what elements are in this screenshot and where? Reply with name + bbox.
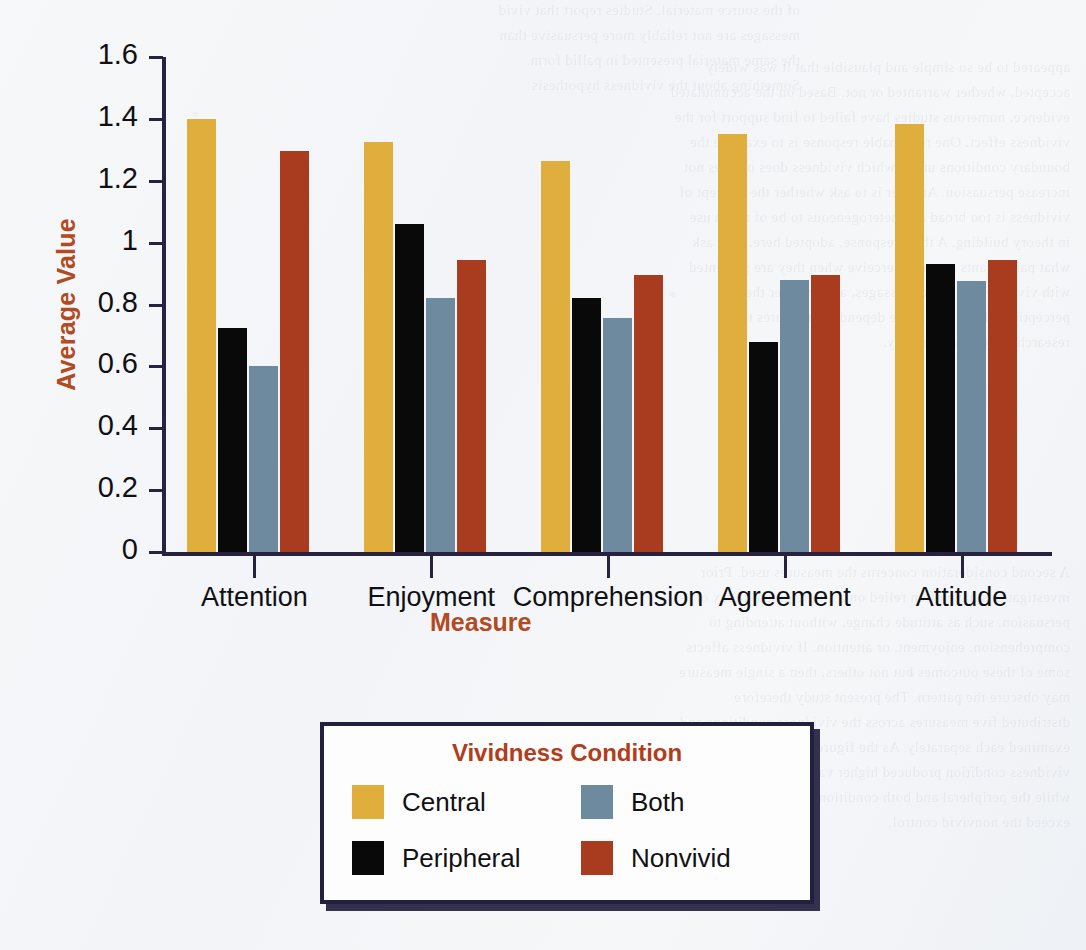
legend-item[interactable]: Peripheral (352, 841, 581, 875)
y-tick-mark (149, 118, 163, 121)
y-tick-label: 1.4 (48, 100, 138, 133)
bar (895, 124, 924, 552)
x-category-label: Attitude (916, 582, 1008, 613)
x-category-label: Agreement (719, 582, 851, 613)
bar (572, 298, 601, 552)
legend-item[interactable]: Both (581, 785, 810, 819)
legend-item[interactable]: Nonvivid (581, 841, 810, 875)
y-tick-mark (149, 304, 163, 307)
legend-swatch-icon (581, 841, 613, 875)
bar (541, 161, 570, 552)
legend-swatch-icon (352, 841, 384, 875)
bar (957, 281, 986, 552)
bar (988, 260, 1017, 552)
legend-swatch-icon (352, 785, 384, 819)
bar (457, 260, 486, 552)
legend-item-label: Both (631, 787, 685, 818)
x-category-label: Comprehension (513, 582, 704, 613)
legend-item[interactable]: Central (352, 785, 581, 819)
y-tick-mark (149, 242, 163, 245)
y-tick-mark (149, 489, 163, 492)
legend-title: Vividness Condition (324, 739, 810, 767)
x-tick-mark (253, 556, 256, 578)
y-tick-mark (149, 427, 163, 430)
legend-item-label: Peripheral (402, 843, 521, 874)
legend-box: Vividness Condition CentralBothPeriphera… (320, 722, 814, 904)
bar (395, 224, 424, 552)
y-axis-ticks: 00.20.40.60.811.21.41.6 (0, 0, 144, 950)
y-tick-mark (149, 551, 163, 554)
x-category-label: Enjoyment (367, 582, 495, 613)
legend-item-label: Central (402, 787, 486, 818)
bar (926, 264, 955, 552)
bar (718, 134, 747, 552)
legend-items: CentralBothPeripheralNonvivid (324, 785, 810, 875)
bar (280, 151, 309, 552)
x-category-label: Attention (201, 582, 308, 613)
y-tick-mark (149, 56, 163, 59)
x-tick-mark (784, 556, 787, 578)
bar (218, 328, 247, 552)
legend-swatch-icon (581, 785, 613, 819)
x-tick-mark (430, 556, 433, 578)
bar (749, 342, 778, 552)
y-tick-mark (149, 180, 163, 183)
bar (187, 119, 216, 552)
bar (811, 275, 840, 552)
bar-chart: 00.20.40.60.811.21.41.6 Average Value Me… (0, 0, 1086, 950)
bar (249, 366, 278, 552)
y-tick-label: 0.2 (48, 471, 138, 504)
bar (364, 142, 393, 552)
x-tick-mark (961, 556, 964, 578)
bar (603, 318, 632, 552)
x-tick-mark (607, 556, 610, 578)
bar (780, 280, 809, 552)
bar (634, 275, 663, 552)
y-axis-line (162, 57, 166, 556)
y-axis-title: Average Value (52, 175, 81, 435)
y-tick-label: 0 (48, 533, 138, 566)
y-tick-mark (149, 365, 163, 368)
legend-item-label: Nonvivid (631, 843, 731, 874)
bar (426, 298, 455, 552)
y-tick-label: 1.6 (48, 38, 138, 71)
